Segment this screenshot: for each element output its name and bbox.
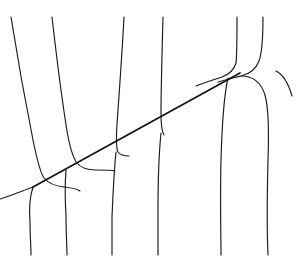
curve-family-plot bbox=[0, 0, 296, 257]
figure-container bbox=[0, 0, 296, 257]
plot-background bbox=[0, 0, 296, 257]
